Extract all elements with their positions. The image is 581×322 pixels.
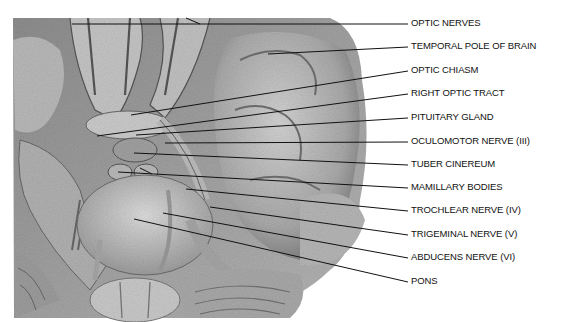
label-abducens-nerve: ABDUCENS NERVE (VI) [411,252,515,262]
label-mamillary-bodies: MAMILLARY BODIES [411,182,503,192]
label-right-optic-tract: RIGHT OPTIC TRACT [411,88,504,98]
label-trochlear-nerve: TROCHLEAR NERVE (IV) [411,205,521,215]
label-pons: PONS [411,276,438,286]
label-optic-nerves: OPTIC NERVES [411,18,480,28]
label-oculomotor-nerve: OCULOMOTOR NERVE (III) [411,136,530,146]
label-temporal-pole: TEMPORAL POLE OF BRAIN [411,41,536,51]
label-optic-chiasm: OPTIC CHIASM [411,65,478,75]
anatomy-figure: OPTIC NERVES TEMPORAL POLE OF BRAIN OPTI… [0,0,581,322]
label-tuber-cinereum: TUBER CINEREUM [411,159,495,169]
label-trigeminal-nerve: TRIGEMINAL NERVE (V) [411,229,517,239]
label-pituitary-gland: PITUITARY GLAND [411,112,493,122]
brain-drawing [13,18,367,322]
